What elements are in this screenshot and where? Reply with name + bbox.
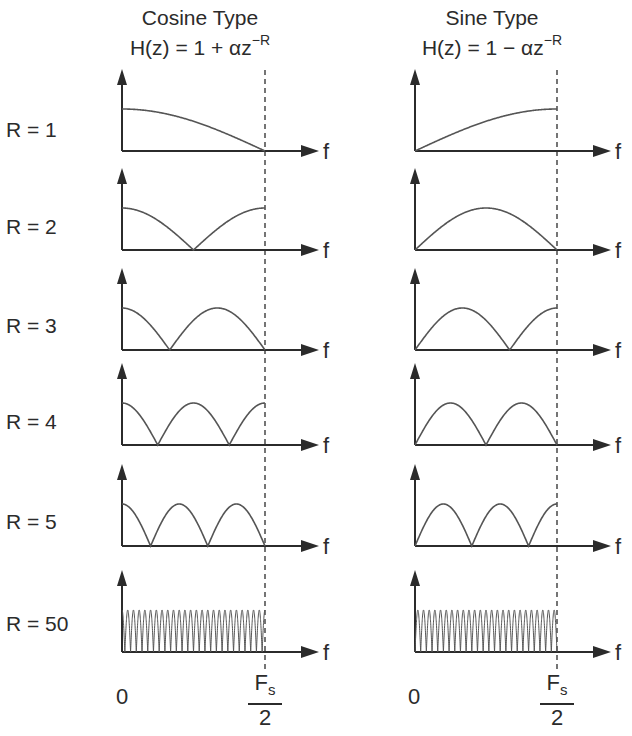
magnitude-response-curve <box>122 308 265 350</box>
f-axis-label: f <box>323 238 329 264</box>
fs-half-label-cosine: Fs 2 <box>248 672 282 729</box>
fs-half-label-sine: Fs 2 <box>540 672 574 729</box>
y-axis-arrow-icon <box>410 268 420 284</box>
x-axis-arrow-icon <box>593 244 611 256</box>
magnitude-response-curve <box>415 208 557 250</box>
x-axis-arrow-icon <box>593 439 611 451</box>
y-axis-arrow-icon <box>410 69 420 85</box>
f-axis-label: f <box>323 534 329 560</box>
x-axis-arrow-icon <box>593 540 611 552</box>
y-axis-arrow-icon <box>117 570 127 586</box>
x-axis-arrow-icon <box>301 344 319 356</box>
x-axis-arrow-icon <box>593 344 611 356</box>
x-axis-arrow-icon <box>301 145 319 157</box>
f-axis-label: f <box>323 338 329 364</box>
f-axis-label: f <box>615 534 621 560</box>
y-axis-arrow-icon <box>117 168 127 184</box>
y-axis-arrow-icon <box>410 168 420 184</box>
x-axis-arrow-icon <box>301 439 319 451</box>
f-axis-label: f <box>323 139 329 165</box>
f-axis-label: f <box>323 433 329 459</box>
y-axis-arrow-icon <box>117 363 127 379</box>
magnitude-response-curve <box>415 308 557 350</box>
magnitude-response-curve <box>122 208 265 250</box>
x-axis-arrow-icon <box>301 244 319 256</box>
plots-canvas <box>0 0 632 736</box>
magnitude-response-curve <box>415 610 557 652</box>
magnitude-response-curve <box>415 403 557 445</box>
f-axis-label: f <box>615 139 621 165</box>
magnitude-response-curve <box>415 504 557 546</box>
y-axis-arrow-icon <box>410 363 420 379</box>
y-axis-arrow-icon <box>410 464 420 480</box>
y-axis-arrow-icon <box>410 570 420 586</box>
x-axis-arrow-icon <box>301 540 319 552</box>
magnitude-response-curve <box>122 403 265 445</box>
magnitude-response-curve <box>122 610 265 652</box>
x-axis-arrow-icon <box>301 646 319 658</box>
x-axis-arrow-icon <box>593 646 611 658</box>
magnitude-response-curve <box>122 504 265 546</box>
magnitude-response-curve <box>415 109 557 151</box>
f-axis-label: f <box>615 338 621 364</box>
y-axis-arrow-icon <box>117 69 127 85</box>
zero-label-sine: 0 <box>408 684 420 710</box>
f-axis-label: f <box>615 433 621 459</box>
y-axis-arrow-icon <box>117 268 127 284</box>
zero-label-cosine: 0 <box>116 684 128 710</box>
f-axis-label: f <box>323 640 329 666</box>
magnitude-response-curve <box>122 109 265 151</box>
f-axis-label: f <box>615 238 621 264</box>
f-axis-label: f <box>615 640 621 666</box>
y-axis-arrow-icon <box>117 464 127 480</box>
x-axis-arrow-icon <box>593 145 611 157</box>
